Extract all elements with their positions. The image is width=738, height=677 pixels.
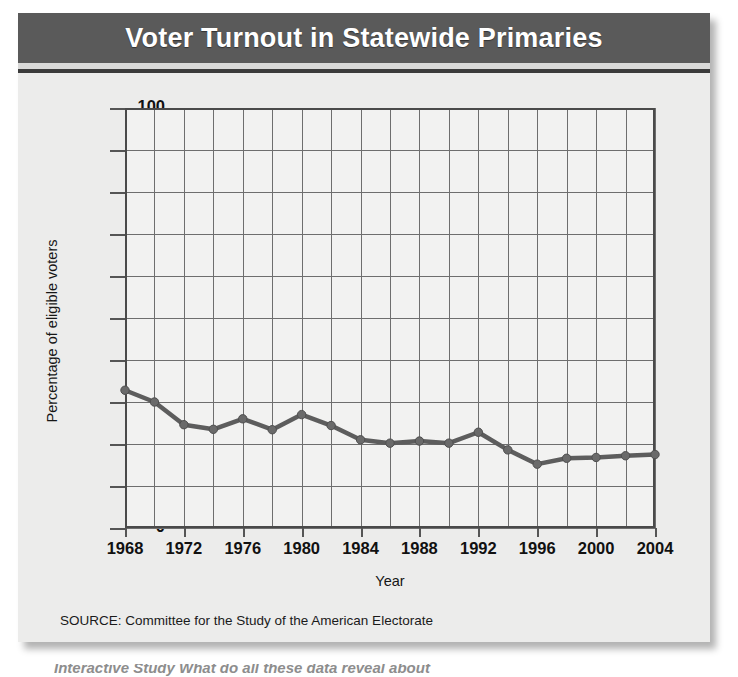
data-point-marker — [150, 398, 158, 406]
data-point-marker — [621, 452, 629, 460]
x-axis-tick-mark — [125, 528, 127, 537]
data-point-marker — [268, 426, 276, 434]
y-axis-tick-mark — [110, 444, 126, 446]
data-point-marker — [209, 425, 217, 433]
data-point-marker — [592, 453, 600, 461]
y-axis-tick-mark — [110, 276, 126, 278]
y-axis-tick-mark — [110, 402, 126, 404]
x-axis-tick-mark — [302, 528, 304, 537]
x-axis-tick-mark — [243, 528, 245, 537]
x-axis-tick-mark — [361, 528, 363, 537]
x-axis-tick-mark — [184, 528, 186, 537]
page-footer-partial-text: Interactive Study What do all these data… — [54, 664, 674, 677]
plot-area — [125, 108, 655, 528]
data-point-marker — [533, 460, 541, 468]
y-axis-tick-mark — [110, 360, 126, 362]
x-axis-tick-label: 2004 — [620, 539, 690, 558]
chart-card: Voter Turnout in Statewide Primaries Per… — [18, 13, 710, 642]
data-point-marker — [356, 436, 364, 444]
x-axis-title: Year — [125, 573, 655, 589]
data-point-marker — [297, 410, 305, 418]
source-note: SOURCE: Committee for the Study of the A… — [60, 613, 433, 628]
data-point-marker — [445, 439, 453, 447]
y-axis-tick-mark — [110, 150, 126, 152]
x-axis-tick-mark — [596, 528, 598, 537]
gridline-vertical — [655, 108, 656, 528]
turnout-series — [125, 108, 655, 528]
y-axis-tick-mark — [110, 528, 126, 530]
y-axis-tick-mark — [110, 318, 126, 320]
data-point-marker — [562, 454, 570, 462]
page-title: Voter Turnout in Statewide Primaries — [125, 23, 602, 54]
y-axis-tick-mark — [110, 192, 126, 194]
x-axis-tick-mark — [655, 528, 657, 537]
data-point-marker — [386, 439, 394, 447]
data-point-marker — [415, 437, 423, 445]
data-point-marker — [474, 428, 482, 436]
y-axis-title: Percentage of eligible voters — [44, 201, 60, 461]
x-axis-tick-mark — [537, 528, 539, 537]
data-point-marker — [327, 421, 335, 429]
chart-page: Voter Turnout in Statewide Primaries Per… — [0, 0, 738, 677]
chart-body: Percentage of eligible voters 0102030405… — [18, 73, 710, 642]
data-point-marker — [239, 415, 247, 423]
data-point-marker — [651, 450, 659, 458]
data-point-marker — [504, 446, 512, 454]
y-axis-tick-mark — [110, 108, 126, 110]
data-point-marker — [180, 420, 188, 428]
chart-title-band: Voter Turnout in Statewide Primaries — [18, 13, 710, 63]
x-axis-tick-mark — [478, 528, 480, 537]
gridline-horizontal — [125, 528, 655, 529]
x-axis-tick-mark — [419, 528, 421, 537]
data-point-marker — [121, 386, 129, 394]
y-axis-tick-mark — [110, 234, 126, 236]
y-axis-tick-mark — [110, 486, 126, 488]
page-footer-text: Interactive Study What do all these data… — [54, 664, 674, 674]
